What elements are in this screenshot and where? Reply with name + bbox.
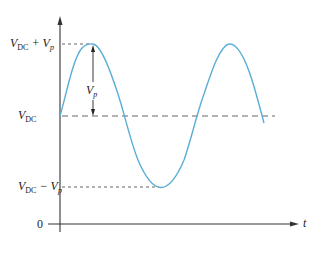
max-level-label: VDC + Vp xyxy=(10,37,54,52)
label-sub: p xyxy=(93,90,97,99)
amplitude-arrow-up-icon xyxy=(91,45,95,52)
time-axis-label: t xyxy=(303,217,306,229)
label-op: + V xyxy=(28,36,49,50)
dc-level-label: VDC xyxy=(18,109,36,124)
label-op: − V xyxy=(36,179,57,193)
label-sub: DC xyxy=(25,115,36,124)
label-sub: p xyxy=(58,186,62,195)
zero-label: 0 xyxy=(37,218,43,230)
label-sub: p xyxy=(50,43,54,52)
label-sub: DC xyxy=(17,43,28,52)
amplitude-label: Vp xyxy=(86,84,97,99)
x-axis-arrow-icon xyxy=(290,222,299,227)
min-level-label: VDC − Vp xyxy=(18,180,62,195)
amplitude-arrow-down-icon xyxy=(91,109,95,116)
label-sub: DC xyxy=(25,186,36,195)
y-axis-arrow-icon xyxy=(58,16,63,25)
